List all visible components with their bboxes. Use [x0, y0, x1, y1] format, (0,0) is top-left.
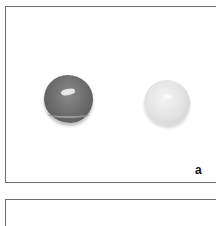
- figure-panel-b: [5, 199, 216, 226]
- light-tablet-image: [144, 80, 190, 125]
- tablet-highlight: [61, 88, 76, 96]
- dark-tablet-image: [44, 75, 93, 123]
- panel-label-a: a: [195, 163, 202, 177]
- tablet-highlight: [163, 95, 172, 99]
- tablet-rim: [47, 110, 90, 118]
- figure-panel-a: [5, 6, 216, 183]
